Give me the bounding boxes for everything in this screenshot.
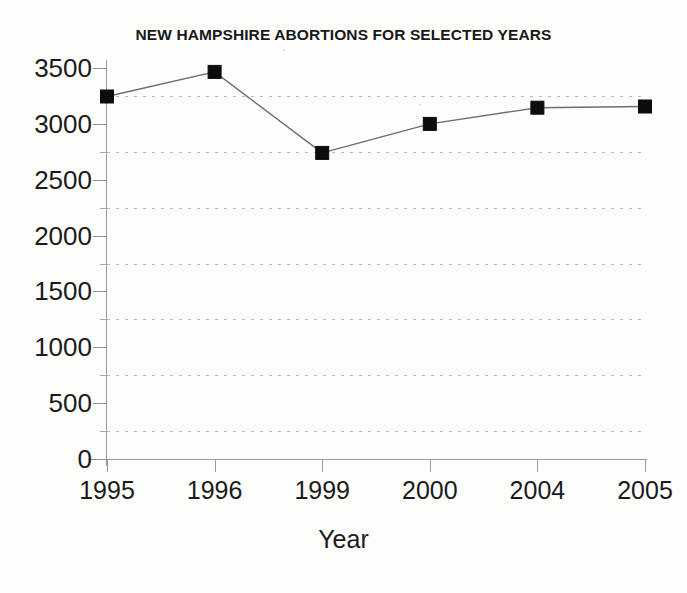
series-data-point xyxy=(423,117,436,130)
series-line xyxy=(107,72,645,153)
scan-speckle xyxy=(419,104,421,106)
chart-figure: NEW HAMPSHIRE ABORTIONS FOR SELECTED YEA… xyxy=(0,0,687,593)
scan-speckle xyxy=(283,49,285,51)
series-plot xyxy=(0,0,687,593)
series-data-point xyxy=(316,146,329,159)
series-data-point xyxy=(531,101,544,114)
series-data-point xyxy=(208,65,221,78)
x-axis-title: Year xyxy=(0,525,687,554)
series-data-point xyxy=(639,100,652,113)
series-data-point xyxy=(101,90,114,103)
